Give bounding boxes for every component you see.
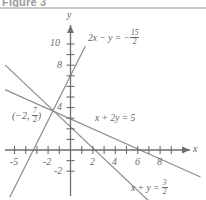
equation-text: x + y = [131, 183, 162, 193]
point-suffix: ) [38, 110, 41, 121]
fraction-denominator: 2 [130, 38, 140, 46]
fraction-3-over-2: 32 [162, 179, 168, 195]
x-axis-label: x [193, 144, 197, 154]
y-axis-label: y [67, 10, 71, 20]
x-tick-label: 2 [90, 157, 95, 167]
y-tick-label: 8 [57, 60, 62, 70]
equation-label-line3: x + y = 32 [131, 179, 168, 195]
y-tick-label: 4 [57, 102, 62, 112]
x-tick-label: 4 [112, 157, 117, 167]
x-axis-arrow [182, 147, 190, 154]
equation-label-line2: x + 2y = 5 [95, 114, 135, 124]
x-tick-label: 6 [135, 157, 140, 167]
fraction-15-over-2: 152 [130, 29, 140, 45]
y-tick-label: 10 [50, 38, 60, 48]
x-tick-label: 8 [157, 157, 162, 167]
line-x-plus-2y [6, 90, 201, 177]
figure-container: Figure 3 [0, 0, 206, 200]
point-prefix: (−2, [12, 110, 32, 121]
equation-text: x + 2y = 5 [95, 113, 135, 123]
fraction-denominator: 2 [162, 188, 168, 196]
x-tick-label: -2 [43, 157, 51, 167]
x-tick-label: -5 [10, 157, 18, 167]
y-axis-arrow [67, 25, 74, 33]
equation-label-line1: 2x − y = −152 [88, 29, 139, 45]
y-tick-label: -2 [54, 166, 62, 176]
intersection-point-label: (−2, 72) [12, 107, 41, 123]
equation-text: 2x − y = − [88, 33, 130, 43]
